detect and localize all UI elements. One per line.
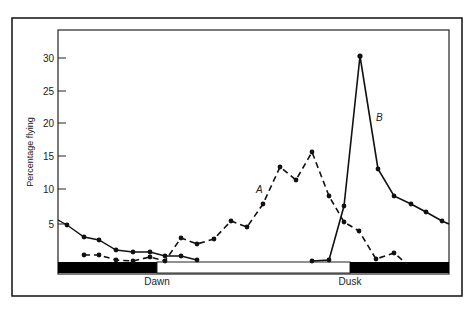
dusk-label: Dusk [339,276,363,287]
night-segment-left [58,262,157,273]
y-tick-5: 5 [48,219,54,230]
day-segment [157,262,350,273]
y-tick-10: 10 [43,184,55,195]
series-b-label: B [376,112,383,123]
y-tick-20: 20 [43,118,55,129]
plot-area [58,30,449,274]
y-tick-labels: 30 25 20 15 10 5 [43,53,55,230]
figure: 30 25 20 15 10 5 Percentage flying Dawn … [0,0,476,313]
y-tick-30: 30 [43,53,55,64]
dawn-label: Dawn [144,276,170,287]
series-a-label: A [255,184,263,195]
y-tick-25: 25 [43,86,55,97]
y-axis-label: Percentage flying [25,117,35,187]
y-tick-15: 15 [43,151,55,162]
night-segment-right [350,262,449,273]
light-dark-bar [58,262,449,273]
